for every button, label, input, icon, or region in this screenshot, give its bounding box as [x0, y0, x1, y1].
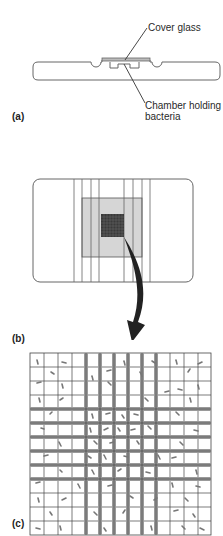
magnified-grid: [0, 0, 223, 536]
panel-c-label: (c): [12, 518, 24, 529]
